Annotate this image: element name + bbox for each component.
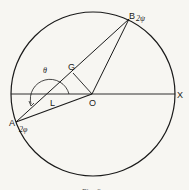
label-x: X: [177, 90, 183, 100]
line-og: [73, 73, 92, 94]
label-a-sub: 2φ: [19, 125, 28, 134]
label-b: B: [129, 11, 135, 21]
label-theta: θ: [43, 66, 47, 75]
figure: A 2φ B 2ψ G L O X θ Fig. 6: [0, 0, 189, 190]
figure-caption: Fig. 6: [82, 188, 101, 190]
geometry-diagram: A 2φ B 2ψ G L O X θ Fig. 6: [0, 0, 189, 190]
label-a: A: [9, 118, 15, 128]
line-ob: [92, 19, 129, 94]
label-b-sub: 2ψ: [136, 14, 146, 23]
label-g: G: [68, 62, 75, 72]
arrowhead-icon: [29, 101, 34, 106]
label-o: O: [89, 98, 96, 108]
label-l: L: [50, 98, 55, 108]
